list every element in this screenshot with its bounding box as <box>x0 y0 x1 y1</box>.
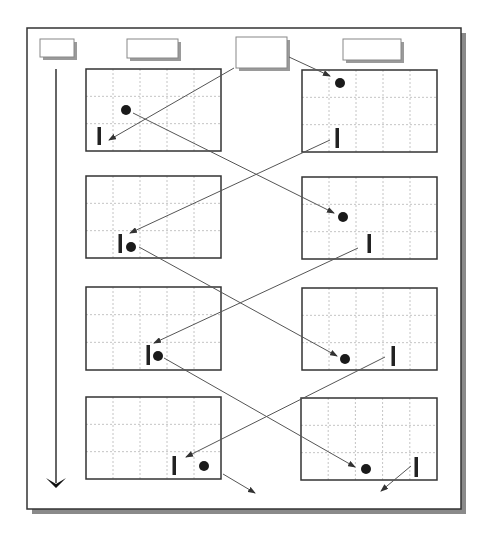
header-box <box>127 39 178 58</box>
panel-bg <box>86 69 221 151</box>
paddle-icon <box>147 345 151 365</box>
header-box <box>236 37 287 68</box>
ball-icon <box>338 212 348 222</box>
panel-right-1 <box>302 70 437 152</box>
ball-icon <box>153 351 163 361</box>
header-box-4 <box>343 39 404 63</box>
header-box-2 <box>127 39 181 61</box>
diagram-canvas <box>0 0 489 533</box>
paddle-icon <box>119 234 123 253</box>
panel-right-2 <box>302 177 437 259</box>
ball-icon <box>335 78 345 88</box>
ball-icon <box>340 354 350 364</box>
panel-right-3 <box>302 288 437 370</box>
header-box-3 <box>236 37 290 71</box>
panel-bg <box>86 176 221 258</box>
paddle-icon <box>392 346 396 366</box>
paddle-icon <box>415 457 419 477</box>
pong-sequence-diagram <box>0 0 489 533</box>
ball-icon <box>199 461 209 471</box>
paddle-icon <box>336 128 340 148</box>
ball-icon <box>121 105 131 115</box>
header-box <box>40 39 74 57</box>
panel-bg <box>302 288 437 370</box>
paddle-icon <box>368 234 372 253</box>
paddle-icon <box>173 456 177 475</box>
panel-left-2 <box>86 176 221 258</box>
paddle-icon <box>98 127 102 145</box>
header-box-1 <box>40 39 77 60</box>
panel-bg <box>302 70 437 152</box>
panel-left-3 <box>86 287 221 370</box>
panel-left-4 <box>86 397 221 479</box>
header-box <box>343 39 401 60</box>
ball-icon <box>361 464 371 474</box>
ball-icon <box>126 242 136 252</box>
panel-right-4 <box>301 398 437 480</box>
panel-left-1 <box>86 69 221 151</box>
